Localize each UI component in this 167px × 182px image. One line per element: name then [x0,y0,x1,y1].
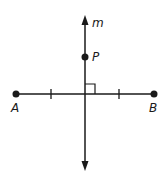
diagram-canvas: m P A B [0,0,167,182]
point-p [82,54,89,61]
arrow-down-icon [82,161,89,171]
label-b: B [149,101,157,115]
label-a: A [10,101,19,115]
arrow-up-icon [82,15,89,25]
right-angle-marker [85,84,95,94]
point-a [13,91,20,98]
label-p: P [92,50,100,64]
label-m: m [92,16,104,30]
point-b [151,91,158,98]
